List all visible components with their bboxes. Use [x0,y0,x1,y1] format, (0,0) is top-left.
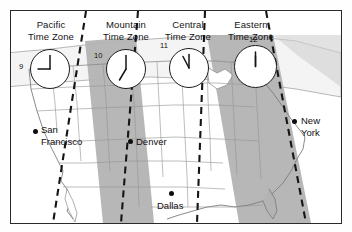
clock-eastern-hour-label: 12 [249,35,257,44]
city-dot-new-york [292,119,297,124]
clock-mountain-hour-label: 10 [94,51,102,60]
city-label-dallas: Dallas [157,200,183,212]
city-label-new-york: New York [301,115,320,138]
city-label-denver: Denver [136,136,167,148]
clock-central-hands [170,49,208,87]
clock-pacific-hands [31,50,69,88]
clock-mountain-hands [107,50,145,88]
clock-central-hour-label: 11 [160,41,168,50]
clock-pacific-hour-label: 9 [19,62,23,71]
clock-eastern [234,45,277,88]
boundary-pacific-mountain [53,11,86,223]
boundary-eastern-atlantic [266,11,306,223]
city-label-new-york-line1: New [301,115,320,127]
city-label-denver-line1: Denver [136,136,167,148]
city-dot-dallas [169,191,174,196]
city-dot-san-francisco [33,129,38,134]
boundary-mountain-central [121,11,138,223]
city-label-dallas-line1: Dallas [157,200,183,212]
time-zone-map-figure: Pacific Time Zone Mountain Time Zone Cen… [0,0,352,232]
city-label-new-york-line2: York [301,127,320,139]
city-dot-denver [128,139,133,144]
city-label-san-francisco: San Francisco [41,124,82,147]
clock-pacific [30,49,70,89]
city-label-san-francisco-line1: San [41,124,82,136]
map-frame: Pacific Time Zone Mountain Time Zone Cen… [10,10,342,224]
boundary-central-eastern [197,11,205,223]
clock-central [169,48,209,88]
clock-mountain [106,49,146,89]
city-label-san-francisco-line2: Francisco [41,136,82,148]
clock-eastern-hands [235,46,276,87]
zone-boundary-lines [11,11,341,223]
